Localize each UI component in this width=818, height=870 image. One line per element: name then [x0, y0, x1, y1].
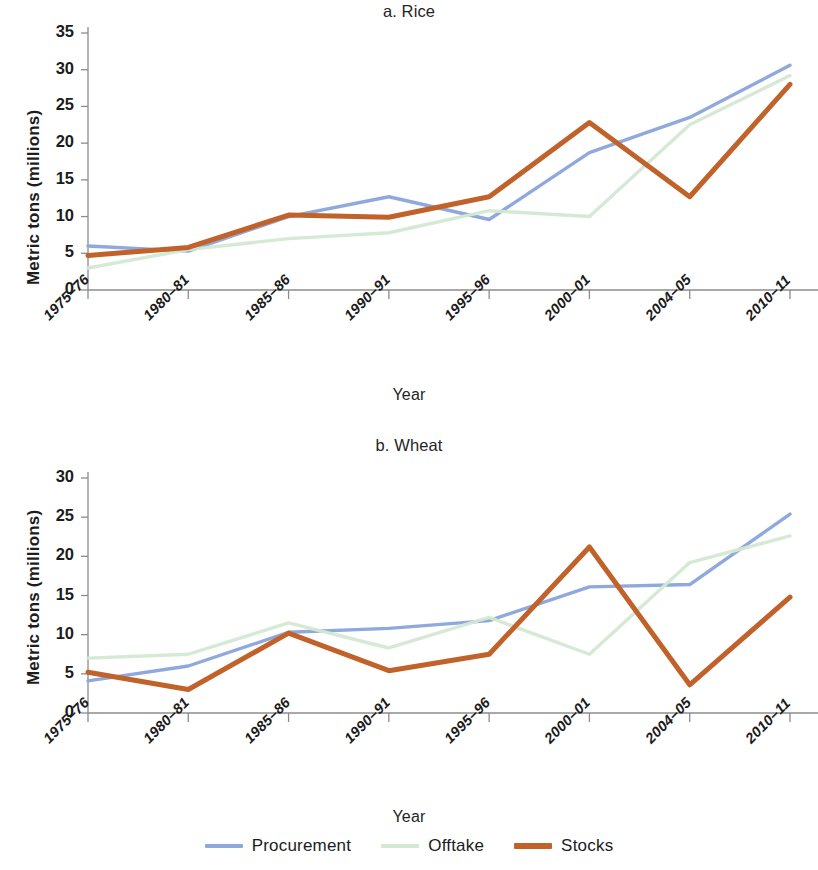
- y-tick-label: 30: [28, 59, 74, 78]
- series-line-offtake: [88, 76, 790, 268]
- plot-area-rice: [0, 0, 818, 430]
- x-axis-label-wheat: Year: [0, 808, 818, 826]
- chart-panel-rice: a. Rice Metric tons (millions) Year 0510…: [0, 0, 818, 430]
- legend-swatch-offtake-icon: [381, 844, 419, 848]
- legend-swatch-procurement-icon: [205, 844, 243, 848]
- series-line-stocks: [88, 84, 790, 255]
- legend-item-stocks[interactable]: Stocks: [514, 836, 613, 856]
- legend-swatch-stocks-icon: [514, 843, 552, 849]
- y-tick-label: 20: [28, 545, 74, 564]
- y-tick-label: 10: [28, 624, 74, 643]
- legend-item-offtake[interactable]: Offtake: [381, 836, 484, 856]
- y-tick-label: 25: [28, 506, 74, 525]
- y-tick-label: 10: [28, 206, 74, 225]
- legend-label: Offtake: [428, 836, 484, 856]
- y-tick-label: 15: [28, 169, 74, 188]
- y-tick-label: 25: [28, 95, 74, 114]
- chart-legend: ProcurementOfftakeStocks: [0, 836, 818, 856]
- y-tick-label: 35: [28, 22, 74, 41]
- figure-procurement-offtake-stocks: a. Rice Metric tons (millions) Year 0510…: [0, 0, 818, 870]
- y-tick-label: 15: [28, 585, 74, 604]
- legend-label: Procurement: [252, 836, 352, 856]
- legend-label: Stocks: [561, 836, 613, 856]
- y-tick-label: 5: [28, 663, 74, 682]
- y-tick-label: 20: [28, 132, 74, 151]
- legend-item-procurement[interactable]: Procurement: [205, 836, 352, 856]
- y-tick-label: 5: [28, 242, 74, 261]
- plot-area-wheat: [0, 430, 818, 830]
- chart-panel-wheat: b. Wheat Metric tons (millions) Year 051…: [0, 430, 818, 830]
- series-line-procurement: [88, 514, 790, 681]
- series-line-offtake: [88, 536, 790, 658]
- x-axis-label-rice: Year: [0, 386, 818, 404]
- y-tick-label: 30: [28, 467, 74, 486]
